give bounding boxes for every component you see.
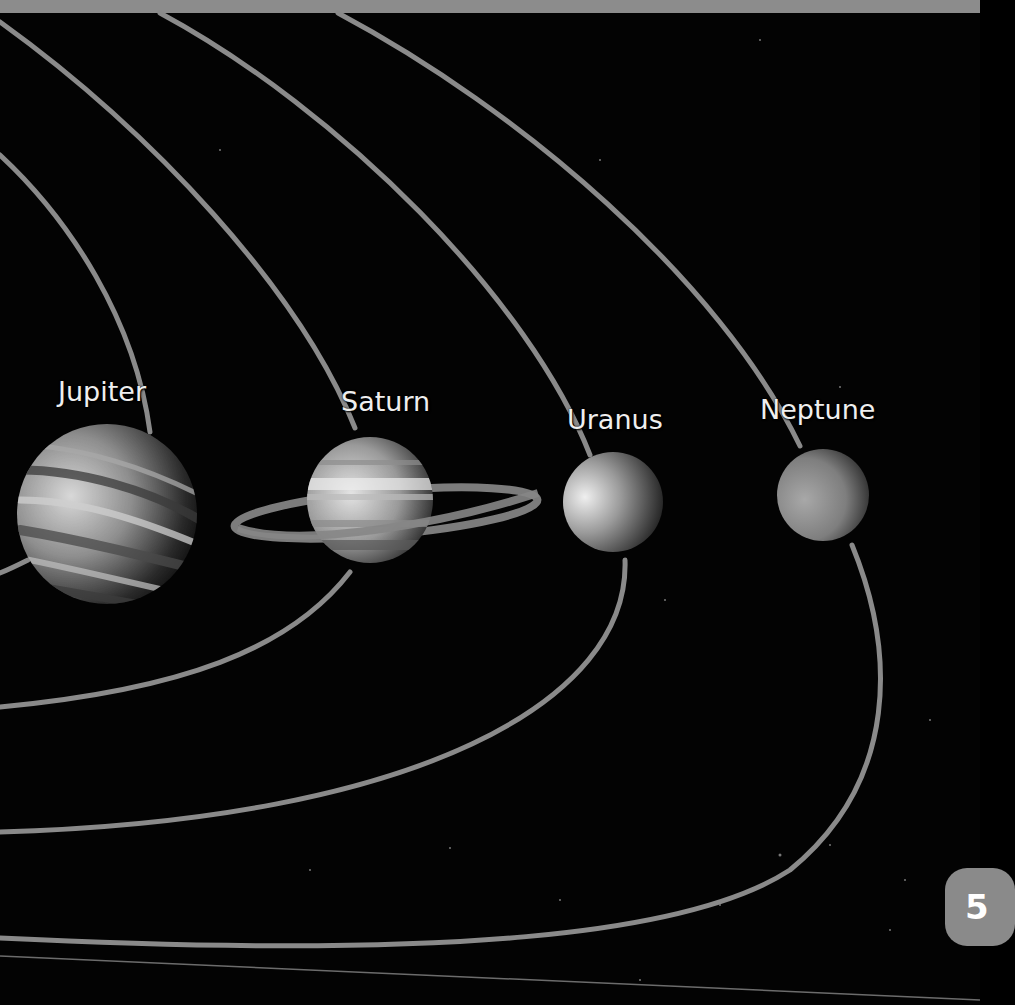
planet-label-jupiter: Jupiter (58, 376, 146, 407)
saturn-orbit (0, 22, 355, 428)
neptune-planet (777, 449, 869, 541)
neptune-orbit (338, 13, 800, 446)
saturn-orbit-lower (0, 572, 350, 707)
page-number-badge: 5 (945, 868, 1015, 946)
planet-label-uranus: Uranus (567, 404, 663, 435)
horizon-line (0, 956, 980, 1000)
uranus-planet (563, 452, 663, 552)
jupiter-planet (17, 424, 200, 615)
jupiter-orbit-lower (0, 560, 28, 573)
neptune-orbit-lower (0, 545, 880, 946)
planet-label-saturn: Saturn (341, 386, 430, 417)
saturn-planet (300, 437, 440, 563)
planet-label-neptune: Neptune (760, 394, 875, 425)
